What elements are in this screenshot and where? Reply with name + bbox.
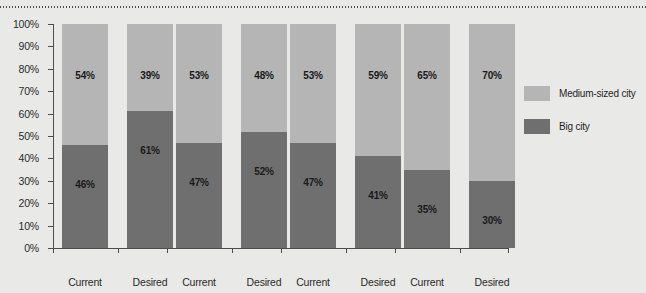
x-tick-0 xyxy=(53,248,54,253)
segment-big-city[interactable]: 46% xyxy=(62,145,108,248)
segment-medium-sized-city[interactable]: 70% xyxy=(469,24,515,181)
y-tick-90: 90% xyxy=(48,46,53,47)
legend-item-big-city[interactable]: Big city xyxy=(524,119,642,134)
y-axis-label-40: 40% xyxy=(19,152,39,164)
y-tick-20: 20% xyxy=(48,203,53,204)
segment-big-city[interactable]: 30% xyxy=(469,181,515,248)
legend-swatch-big-city xyxy=(524,119,550,134)
segment-big-city[interactable]: 47% xyxy=(176,143,222,248)
x-category-label-millennials-current: Current xyxy=(50,276,120,288)
y-axis-label-20: 20% xyxy=(19,197,39,209)
y-tick-100: 100% xyxy=(48,24,53,25)
segment-value-label: 61% xyxy=(127,145,173,156)
x-tick-1 xyxy=(118,248,119,253)
segment-value-label: 70% xyxy=(469,70,515,81)
y-tick-80: 80% xyxy=(48,69,53,70)
segment-big-city[interactable]: 52% xyxy=(241,132,287,248)
y-tick-10: 10% xyxy=(48,226,53,227)
y-tick-70: 70% xyxy=(48,91,53,92)
bar-baby-boomers-current[interactable]: 53% 47% xyxy=(290,24,336,248)
segment-value-label: 53% xyxy=(176,70,222,81)
segment-value-label: 48% xyxy=(241,70,287,81)
y-axis-label-90: 90% xyxy=(19,40,39,52)
y-tick-60: 60% xyxy=(48,114,53,115)
x-tick-7 xyxy=(460,248,461,253)
segment-value-label: 39% xyxy=(127,70,173,81)
segment-big-city[interactable]: 47% xyxy=(290,143,336,248)
x-tick-8 xyxy=(508,248,509,253)
legend-swatch-medium-sized-city xyxy=(524,86,550,101)
x-tick-6 xyxy=(395,248,396,253)
legend-label-medium-sized-city: Medium-sized city xyxy=(559,88,636,99)
x-category-label-gen-xers-current: Current xyxy=(164,276,234,288)
segment-value-label: 65% xyxy=(404,70,450,81)
y-tick-30: 30% xyxy=(48,181,53,182)
segment-value-label: 46% xyxy=(62,179,108,190)
bar-millennials-desired[interactable]: 39% 61% xyxy=(127,24,173,248)
segment-value-label: 47% xyxy=(290,177,336,188)
x-tick-3 xyxy=(232,248,233,253)
segment-value-label: 47% xyxy=(176,177,222,188)
y-axis-label-50: 50% xyxy=(19,130,39,142)
segment-medium-sized-city[interactable]: 65% xyxy=(404,24,450,170)
dotted-top-rule xyxy=(0,6,646,8)
y-axis-line xyxy=(53,24,54,248)
segment-value-label: 59% xyxy=(355,70,401,81)
y-axis-label-80: 80% xyxy=(19,63,39,75)
segment-big-city[interactable]: 61% xyxy=(127,111,173,248)
segment-medium-sized-city[interactable]: 53% xyxy=(176,24,222,143)
bar-millennials-current[interactable]: 54% 46% xyxy=(62,24,108,248)
plot-area: 100% 90% 80% 70% 60% 50% 40% 30% 20% 10% xyxy=(53,24,508,248)
segment-value-label: 35% xyxy=(404,204,450,215)
legend-label-big-city: Big city xyxy=(559,121,590,132)
segment-medium-sized-city[interactable]: 48% xyxy=(241,24,287,132)
bar-gen-xers-desired[interactable]: 48% 52% xyxy=(241,24,287,248)
y-axis-label-60: 60% xyxy=(19,108,39,120)
x-tick-5 xyxy=(346,248,347,253)
x-category-label-war-silent-desired: Desired xyxy=(457,276,527,288)
bar-gen-xers-current[interactable]: 53% 47% xyxy=(176,24,222,248)
x-tick-4 xyxy=(281,248,282,253)
segment-medium-sized-city[interactable]: 53% xyxy=(290,24,336,143)
legend-item-medium-sized-city[interactable]: Medium-sized city xyxy=(524,86,642,101)
segment-big-city[interactable]: 41% xyxy=(355,156,401,248)
y-tick-50: 50% xyxy=(48,136,53,137)
y-axis-label-0: 0% xyxy=(24,242,39,254)
segment-value-label: 54% xyxy=(62,70,108,81)
bar-baby-boomers-desired[interactable]: 59% 41% xyxy=(355,24,401,248)
segment-medium-sized-city[interactable]: 39% xyxy=(127,24,173,111)
segment-value-label: 41% xyxy=(355,190,401,201)
segment-medium-sized-city[interactable]: 59% xyxy=(355,24,401,156)
x-category-label-baby-boomers-current: Current xyxy=(278,276,348,288)
y-axis-label-10: 10% xyxy=(19,220,39,232)
segment-big-city[interactable]: 35% xyxy=(404,170,450,248)
segment-value-label: 52% xyxy=(241,166,287,177)
legend: Medium-sized city Big city xyxy=(524,86,642,152)
y-axis-label-100: 100% xyxy=(13,18,39,30)
segment-medium-sized-city[interactable]: 54% xyxy=(62,24,108,145)
y-axis-label-70: 70% xyxy=(19,85,39,97)
x-category-label-war-silent-current: Current xyxy=(392,276,462,288)
segment-value-label: 30% xyxy=(469,215,515,226)
y-tick-40: 40% xyxy=(48,158,53,159)
bar-war-silent-desired[interactable]: 70% 30% xyxy=(469,24,515,248)
stacked-bar-chart-figure: 100% 90% 80% 70% 60% 50% 40% 30% 20% 10% xyxy=(0,0,646,293)
segment-value-label: 53% xyxy=(290,70,336,81)
y-axis-label-30: 30% xyxy=(19,175,39,187)
x-tick-2 xyxy=(167,248,168,253)
bar-war-silent-current[interactable]: 65% 35% xyxy=(404,24,450,248)
